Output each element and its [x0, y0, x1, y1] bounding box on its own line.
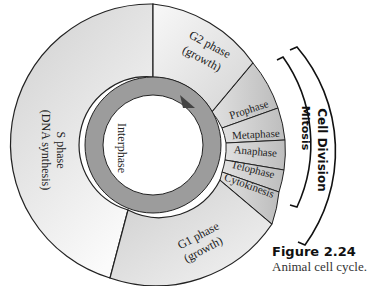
interphase-label: Interphase [115, 123, 129, 173]
s-phase-label: S phase [54, 132, 68, 169]
figure-description: Animal cell cycle. [272, 259, 367, 274]
mitosis-bracket-label: Mitosis [299, 106, 312, 151]
figure-number: Figure 2.24 [272, 244, 367, 259]
figure-caption: Figure 2.24 Animal cell cycle. [272, 244, 367, 274]
cell-division-bracket-label: Cell Division [315, 108, 329, 191]
s-phase-sublabel: (DNA synthesis) [39, 110, 53, 190]
metaphase-label: Metaphase [232, 127, 280, 141]
